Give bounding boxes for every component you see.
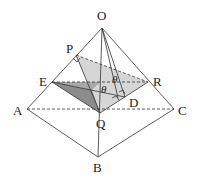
pyramid-diagram: θ θ O P E R A C Q D B [0, 0, 199, 184]
theta-upper: θ [112, 73, 118, 85]
label-C: C [178, 103, 187, 118]
label-O: O [97, 8, 106, 23]
label-A: A [13, 103, 23, 118]
label-E: E [39, 74, 47, 89]
label-Q: Q [96, 116, 106, 131]
label-R: R [153, 74, 162, 89]
label-P: P [66, 41, 73, 56]
theta-lower: θ [101, 83, 107, 95]
label-B: B [93, 160, 102, 175]
label-D: D [129, 95, 138, 110]
edge-AB [27, 109, 98, 157]
edge-CB [98, 109, 174, 157]
